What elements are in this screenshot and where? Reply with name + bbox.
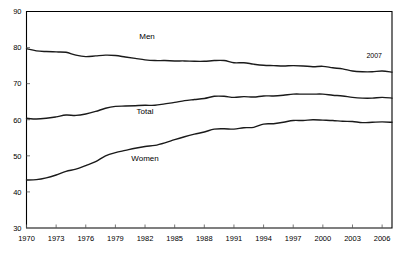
year-annotation-2007: 2007 [366, 52, 382, 59]
series-label-women: Women [131, 154, 158, 163]
x-axis-tick-label-1994: 1994 [255, 234, 272, 243]
x-axis-tick-label-2006: 2006 [374, 234, 391, 243]
series-line-total [27, 94, 393, 119]
x-axis-tick-label-1979: 1979 [107, 234, 124, 243]
y-axis-tick-label-70: 70 [13, 79, 21, 88]
x-axis-tick-label-1997: 1997 [285, 234, 302, 243]
series-label-total: Total [137, 107, 154, 116]
y-axis-tick-label-30: 30 [13, 224, 21, 233]
y-axis-tick-label-50: 50 [13, 152, 21, 161]
y-axis-tick-label-60: 60 [13, 116, 21, 125]
line-chart: 3040506070809019701973197619791982198519… [0, 0, 405, 255]
plot-border [27, 12, 393, 229]
x-axis-tick-label-2003: 2003 [344, 234, 361, 243]
x-axis-tick-label-2000: 2000 [315, 234, 332, 243]
x-axis-tick-label-1988: 1988 [196, 234, 213, 243]
x-axis-tick-label-1985: 1985 [166, 234, 183, 243]
x-axis-tick-label-1982: 1982 [137, 234, 154, 243]
series-line-men [27, 49, 393, 72]
chart-canvas: 3040506070809019701973197619791982198519… [0, 0, 405, 255]
x-axis-tick-label-1970: 1970 [18, 234, 35, 243]
x-axis-tick-label-1976: 1976 [77, 234, 94, 243]
y-axis-tick-label-80: 80 [13, 43, 21, 52]
x-axis-tick-label-1991: 1991 [226, 234, 243, 243]
y-axis-tick-label-40: 40 [13, 188, 21, 197]
series-label-men: Men [139, 32, 155, 41]
series-line-women [27, 120, 393, 180]
y-axis-tick-label-90: 90 [13, 7, 21, 16]
x-axis-tick-label-1973: 1973 [48, 234, 65, 243]
